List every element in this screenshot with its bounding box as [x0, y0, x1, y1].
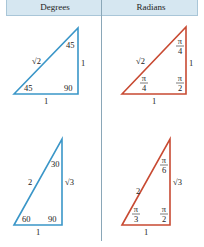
deg45-vertical-side: 1 [81, 58, 85, 68]
radians-45-triangle [122, 27, 186, 94]
rad3060-right-angle-den: 2 [162, 214, 166, 224]
rad45-right-angle-den: 2 [178, 83, 182, 93]
deg3060-left-angle: 60 [22, 214, 31, 224]
deg45-left-angle: 45 [24, 83, 33, 93]
deg3060-top-angle: 30 [51, 159, 60, 169]
rad45-left-angle-num: π [142, 73, 147, 83]
rad3060-vertical-side: √3 [173, 177, 182, 187]
rad3060-left-angle-den: 3 [134, 214, 138, 224]
deg45-base: 1 [44, 96, 48, 106]
rad3060-base: 1 [144, 227, 148, 237]
rad45-base: 1 [152, 96, 156, 106]
rad45-left-angle-den: 4 [142, 83, 147, 93]
radians-45-triangle-group: π 4 √2 1 π 4 π 2 1 [122, 27, 193, 106]
deg3060-right-angle: 90 [48, 214, 57, 224]
degrees-45-triangle-group: 45 √2 1 45 90 1 [14, 28, 85, 106]
radians-30-60-triangle-group: π 6 2 √3 π 3 π 2 1 [122, 139, 182, 237]
rad45-hypotenuse: √2 [136, 56, 145, 66]
deg45-hypotenuse: √2 [32, 56, 41, 66]
triangles-diagram: 45 √2 1 45 90 1 π 4 √2 1 π 4 π 2 1 30 2 … [0, 0, 204, 247]
rad45-right-angle-num: π [178, 73, 183, 83]
rad3060-top-angle-num: π [162, 155, 167, 165]
rad3060-top-angle-den: 6 [162, 165, 166, 175]
rad3060-hypotenuse: 2 [136, 186, 140, 196]
deg3060-hypotenuse: 2 [28, 177, 32, 187]
rad3060-right-angle-num: π [162, 204, 167, 214]
rad3060-left-angle-num: π [134, 204, 139, 214]
deg3060-vertical-side: √3 [65, 177, 74, 187]
deg45-top-angle: 45 [66, 40, 75, 50]
deg45-right-angle: 90 [64, 83, 73, 93]
degrees-30-60-triangle [14, 139, 62, 225]
degrees-30-60-triangle-group: 30 2 √3 60 90 1 [14, 139, 74, 237]
deg3060-base: 1 [36, 227, 40, 237]
rad45-top-angle-num: π [178, 36, 183, 46]
rad45-top-angle-den: 4 [178, 46, 183, 56]
rad45-vertical-side: 1 [189, 58, 193, 68]
